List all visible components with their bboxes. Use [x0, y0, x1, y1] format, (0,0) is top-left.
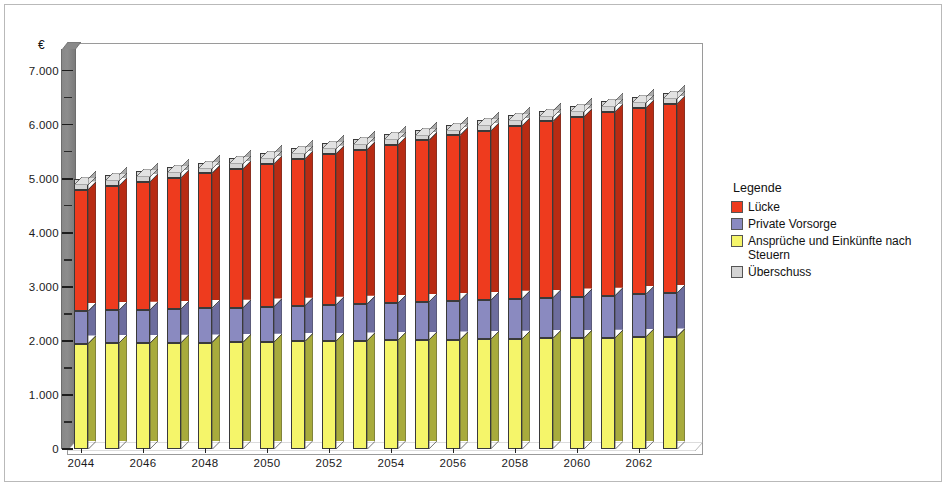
legend: Legende LückePrivate VorsorgeAnsprüche u… [731, 181, 931, 282]
table-row [446, 49, 468, 449]
y-axis-minor-tick [64, 97, 72, 98]
x-axis-tick-label: 2050 [254, 457, 281, 469]
bar-segment [570, 297, 584, 338]
bar-top-cap [415, 122, 437, 130]
bar-segment [446, 340, 460, 449]
bar-segment [384, 303, 398, 340]
bar-segment-side [367, 296, 375, 333]
bar-segment [105, 343, 119, 449]
table-row [105, 49, 127, 449]
y-axis-tick-label: 4.000 [29, 227, 59, 239]
legend-item[interactable]: Überschuss [731, 265, 931, 279]
bar-top-cap [136, 163, 158, 171]
bar-segment [539, 338, 553, 449]
table-row [260, 49, 282, 449]
bar-segment [632, 337, 646, 449]
bar-segment [353, 304, 367, 341]
bar-segment [477, 300, 491, 339]
y-axis-minor-tick [64, 313, 72, 314]
bar-segment-side [212, 335, 220, 441]
x-axis-tick-label: 2052 [316, 457, 343, 469]
bar-segment-side [522, 331, 530, 441]
bar-segment [353, 150, 367, 304]
x-axis-tick [205, 448, 206, 453]
bar-segment-side [88, 303, 96, 335]
x-axis-tick-label: 2058 [502, 457, 529, 469]
bar-segment [570, 117, 584, 297]
bar-top-cap [198, 155, 220, 163]
bar-segment [105, 310, 119, 343]
legend-title: Legende [733, 181, 931, 195]
bar-top-cap [384, 126, 406, 134]
bar-segment-side [429, 332, 437, 441]
y-axis-tick-label: 5.000 [29, 173, 59, 185]
bar-segment [291, 341, 305, 449]
bar-segment-side [429, 294, 437, 332]
x-axis-tick-label: 2056 [440, 457, 467, 469]
y-axis-minor-tick [64, 259, 72, 260]
y-axis-tick-label: 6.000 [29, 119, 59, 131]
y-axis-tick-label: 3.000 [29, 281, 59, 293]
x-axis-tick [453, 448, 454, 453]
y-axis-tick [62, 394, 73, 396]
y-axis-tick [62, 448, 73, 450]
legend-item-label: Private Vorsorge [748, 217, 837, 231]
bar-segment [229, 308, 243, 343]
bar-segment [198, 343, 212, 449]
bar-segment [167, 343, 181, 449]
bar-segment [384, 340, 398, 449]
y-axis-tick-label: 0 [52, 443, 59, 455]
bar-segment-side [119, 178, 127, 302]
bar-segment [663, 293, 677, 336]
bar-segment-side [305, 298, 313, 334]
x-axis-tick-label: 2060 [564, 457, 591, 469]
legend-item-label: Überschuss [748, 265, 811, 279]
bars-container [73, 49, 693, 449]
bar-segment [508, 339, 522, 449]
bar-segment-side [553, 330, 561, 441]
legend-item-label: Lücke [748, 200, 780, 214]
legend-item-label: Ansprüche und Einkünfte nach Steuern [748, 234, 923, 262]
bar-segment [601, 112, 615, 296]
bar-top-cap [260, 145, 282, 153]
bar-segment-side [150, 302, 158, 335]
bar-top-cap [291, 140, 313, 148]
bar-segment [632, 108, 646, 294]
bar-segment [415, 302, 429, 340]
bar-segment-side [677, 329, 685, 441]
bar-segment [74, 344, 88, 449]
table-row [508, 49, 530, 449]
bar-segment-side [677, 285, 685, 328]
bar-top-cap [446, 117, 468, 125]
bar-segment [415, 140, 429, 302]
x-axis-tick-label: 2046 [130, 457, 157, 469]
bar-segment-side [274, 156, 282, 298]
bar-segment [477, 339, 491, 449]
bar-segment-side [460, 293, 468, 332]
bar-top-cap [167, 159, 189, 167]
bar-segment [136, 182, 150, 310]
legend-item[interactable]: Private Vorsorge [731, 217, 931, 231]
bar-segment-side [491, 123, 499, 292]
bar-segment [477, 131, 491, 300]
y-axis-tick-label: 7.000 [29, 65, 59, 77]
bar-segment-side [88, 336, 96, 441]
bar-segment-side [429, 132, 437, 294]
bar-segment-side [336, 333, 344, 441]
table-row [632, 49, 654, 449]
bar-top-cap [570, 98, 592, 106]
bar-segment-side [336, 297, 344, 333]
bar-segment-side [522, 291, 530, 331]
bar-segment-side [646, 329, 654, 441]
legend-item[interactable]: Lücke [731, 200, 931, 214]
chart-frame: € 01.0002.0003.0004.0005.0006.0007.000 2… [4, 4, 942, 482]
bar-segment-side [305, 151, 313, 297]
table-row [198, 49, 220, 449]
legend-item[interactable]: Ansprüche und Einkünfte nach Steuern [731, 234, 931, 262]
bar-segment [539, 121, 553, 297]
table-row [322, 49, 344, 449]
bar-segment-side [181, 335, 189, 441]
bar-segment [322, 154, 336, 305]
bar-segment [415, 340, 429, 449]
x-axis-tick [267, 448, 268, 453]
